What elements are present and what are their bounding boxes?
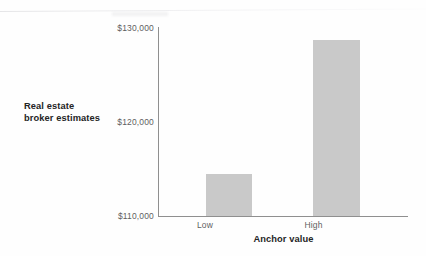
x-tick-label-low: Low	[182, 220, 228, 230]
x-tick-label-high: High	[290, 220, 337, 230]
y-axis-tick-labels: $130,000 $120,000 $110,000	[96, 0, 154, 256]
y-tick-label-130000: $130,000	[117, 23, 154, 33]
y-tick-label-110000: $110,000	[118, 211, 154, 221]
y-tick-label-120000: $120,000	[117, 117, 154, 127]
bar-high	[313, 40, 360, 216]
scan-artifact-line	[0, 8, 426, 12]
x-axis-line	[159, 216, 408, 217]
plot-area	[159, 28, 408, 216]
bar-low	[206, 174, 252, 216]
x-axis-title: Anchor value	[159, 234, 408, 244]
bar-chart-figure: Real estate broker estimates $130,000 $1…	[0, 0, 426, 256]
